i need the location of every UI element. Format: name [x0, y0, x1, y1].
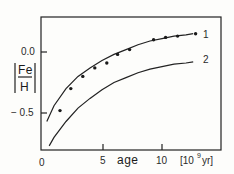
data-point [194, 32, 197, 35]
curve-2-label: 2 [203, 54, 209, 65]
x-tick-label-5: 5 [100, 155, 106, 166]
data-point [164, 36, 167, 39]
data-point [81, 75, 84, 78]
data-point [58, 109, 61, 112]
y-label-numerator: Fe [18, 63, 33, 77]
y-axis-label: Fe H [15, 63, 35, 94]
plot-frame [41, 17, 221, 150]
data-point [116, 53, 119, 56]
data-point [152, 38, 155, 41]
data-point [176, 34, 179, 37]
x-unit-tail: yr] [202, 155, 213, 166]
x-axis-unit: [10 9 yr] [180, 152, 213, 166]
x-unit-exponent: 9 [197, 152, 201, 159]
data-points [58, 32, 197, 112]
curve-1 [47, 34, 193, 122]
curve-1-label: 1 [203, 29, 209, 40]
curve-2 [49, 62, 193, 146]
data-point [93, 66, 96, 69]
y-tick-label-minus-0-5: − 0.5 [11, 107, 34, 118]
data-point [105, 61, 108, 64]
y-tick-label-0: 0.0 [21, 46, 35, 57]
data-point [128, 48, 131, 51]
data-point [69, 87, 72, 90]
x-tick-label-10: 10 [156, 155, 168, 166]
chart: 1 2 0.0 − 0.5 Fe H 0 5 10 age [10 9 yr] [0, 0, 234, 174]
x-axis-label: age [117, 153, 139, 167]
x-tick-label-0: 0 [39, 157, 45, 168]
y-label-denominator: H [20, 80, 29, 94]
x-unit-base: [10 [180, 155, 194, 166]
